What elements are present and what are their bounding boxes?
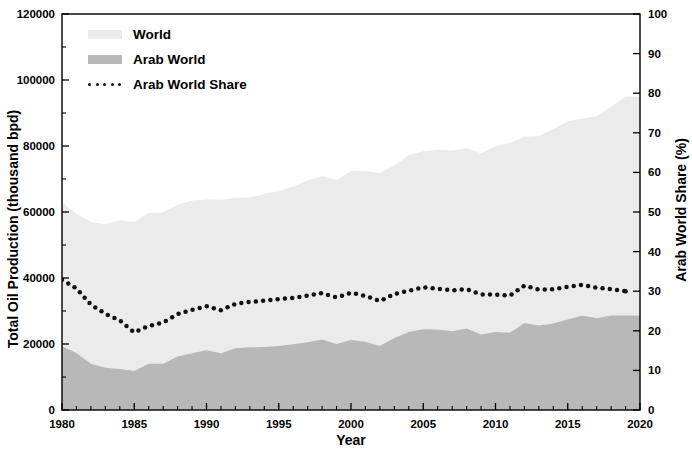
legend-label-world: World	[133, 27, 171, 42]
svg-text:0: 0	[648, 404, 654, 416]
svg-text:40000: 40000	[23, 272, 55, 284]
svg-text:1995: 1995	[266, 418, 292, 430]
dotted-line-swatch-icon	[88, 80, 122, 89]
svg-text:40: 40	[648, 246, 661, 258]
svg-text:60000: 60000	[23, 206, 55, 218]
svg-text:2020: 2020	[627, 418, 653, 430]
oil-production-chart-figure: 020000400006000080000100000120000 010203…	[0, 0, 692, 458]
svg-text:100: 100	[648, 8, 667, 20]
world-swatch-icon	[88, 30, 122, 39]
svg-text:1980: 1980	[49, 418, 75, 430]
chart-legend: World Arab World Arab World Share	[88, 22, 247, 97]
svg-text:30: 30	[648, 285, 661, 297]
svg-text:70: 70	[648, 127, 661, 139]
svg-text:60: 60	[648, 166, 661, 178]
svg-text:0: 0	[49, 404, 55, 416]
svg-text:1990: 1990	[194, 418, 220, 430]
svg-text:2005: 2005	[410, 418, 436, 430]
legend-item-arab-world: Arab World	[88, 47, 247, 72]
svg-text:50: 50	[648, 206, 661, 218]
svg-text:20: 20	[648, 325, 661, 337]
legend-item-arab-world-share: Arab World Share	[88, 72, 247, 97]
svg-text:90: 90	[648, 48, 661, 60]
legend-label-arab-world: Arab World	[133, 52, 206, 67]
svg-text:80000: 80000	[23, 140, 55, 152]
svg-text:1985: 1985	[121, 418, 147, 430]
svg-text:2010: 2010	[483, 418, 509, 430]
svg-text:20000: 20000	[23, 338, 55, 350]
right-axis-title: Arab World Share (%)	[670, 0, 692, 420]
svg-text:2000: 2000	[338, 418, 364, 430]
x-axis-title: Year	[62, 432, 640, 448]
svg-text:2015: 2015	[555, 418, 581, 430]
legend-label-arab-world-share: Arab World Share	[133, 77, 247, 92]
bottom-axis-tick-labels: 198019851990199520002005201020152020	[49, 418, 653, 430]
left-axis-title: Total Oil Production (thousand bpd)	[2, 0, 24, 458]
svg-text:80: 80	[648, 87, 661, 99]
arab-world-swatch-icon	[88, 55, 122, 64]
legend-item-world: World	[88, 22, 247, 47]
svg-text:10: 10	[648, 364, 661, 376]
